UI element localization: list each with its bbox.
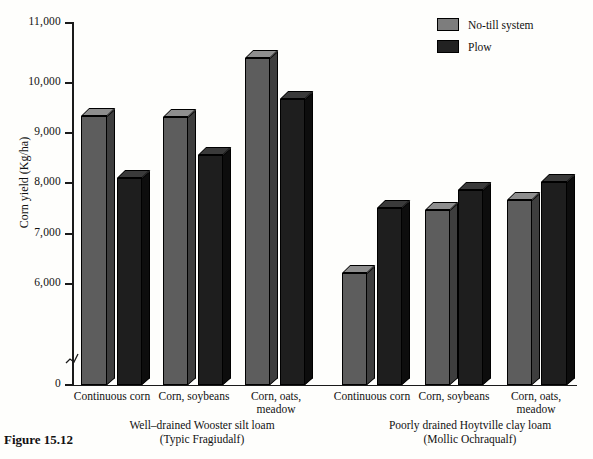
bar-hoytville-soybeans-plow [458, 182, 483, 385]
bar-side-face [107, 109, 115, 385]
bar-front-face [81, 116, 107, 385]
bar-front-face [117, 178, 142, 385]
bar-front-face [541, 182, 567, 385]
legend: No-till system Plow [437, 16, 534, 60]
bar-side-face [402, 201, 410, 385]
figure-container: Corn yield (Kg/ha) 11,00010,0009,0008,00… [0, 0, 593, 459]
legend-label-notill: No-till system [468, 19, 534, 31]
y-tick-mark [65, 384, 73, 385]
y-tick-mark [65, 182, 73, 183]
y-tick-mark [65, 233, 73, 234]
bar-hoytville-meadow-notill [507, 192, 532, 385]
bar-side-face [483, 183, 491, 385]
bar-front-face [507, 200, 532, 385]
bar-wooster-soybeans-notill [163, 109, 188, 385]
bar-front-face [458, 190, 483, 385]
bar-side-face [223, 148, 231, 385]
x-category-label: Corn, oats, meadow [492, 390, 580, 416]
y-tick-label: 7,000 [34, 226, 61, 238]
legend-item-plow: Plow [437, 38, 534, 55]
bar-side-face [367, 266, 375, 385]
bar-front-face [377, 208, 402, 385]
bar-front-face [425, 210, 450, 385]
y-axis-line [72, 22, 74, 385]
bar-wooster-continuous-notill [81, 108, 107, 385]
y-tick-label: 11,000 [29, 15, 61, 27]
x-category-label: Corn, soybeans [410, 390, 498, 403]
bar-front-face [245, 58, 270, 385]
notill-swatch [437, 18, 459, 31]
bar-side-face [305, 92, 313, 385]
bar-wooster-meadow-plow [280, 91, 305, 385]
figure-caption: Figure 15.12 [4, 432, 73, 448]
bar-side-face [532, 193, 540, 385]
y-tick-mark [65, 82, 73, 83]
bar-wooster-continuous-plow [117, 170, 142, 385]
y-tick-mark [65, 132, 73, 133]
legend-item-notill: No-till system [437, 16, 534, 33]
bar-hoytville-soybeans-notill [425, 202, 450, 385]
bar-side-face [450, 203, 458, 385]
x-category-label: Corn, soybeans [150, 390, 238, 403]
bar-front-face [198, 155, 223, 385]
legend-label-plow: Plow [468, 41, 492, 53]
y-tick-label: 6,000 [34, 276, 61, 288]
panel-title: Well–drained Wooster silt loam (Typic Fr… [92, 418, 312, 446]
bar-side-face [142, 171, 150, 385]
x-axis-line [72, 385, 577, 386]
bar-side-face [270, 51, 278, 385]
x-category-label: Continuous corn [68, 390, 156, 403]
bar-hoytville-continuous-notill [342, 265, 367, 385]
bar-hoytville-continuous-plow [377, 200, 402, 385]
x-category-label: Continuous corn [328, 390, 416, 403]
x-category-label: Corn, oats, meadow [232, 390, 320, 416]
bar-hoytville-meadow-plow [541, 174, 567, 385]
y-tick-mark [65, 283, 73, 284]
panel-title: Poorly drained Hoytville clay loam (Moll… [350, 418, 590, 446]
y-tick-label: 8,000 [34, 175, 61, 187]
bar-side-face [188, 110, 196, 385]
bar-wooster-meadow-notill [245, 50, 270, 385]
y-tick-label: 10,000 [28, 75, 61, 87]
bar-front-face [342, 273, 367, 385]
y-tick-mark [65, 22, 73, 23]
y-axis-title: Corn yield (Kg/ha) [17, 103, 32, 263]
bar-side-face [567, 175, 575, 385]
axis-break-icon [65, 351, 79, 365]
bar-front-face [280, 99, 305, 385]
bar-wooster-soybeans-plow [198, 147, 223, 385]
bar-front-face [163, 117, 188, 385]
y-tick-label: 0 [55, 377, 61, 389]
plow-swatch [437, 40, 459, 53]
y-tick-label: 9,000 [34, 125, 61, 137]
